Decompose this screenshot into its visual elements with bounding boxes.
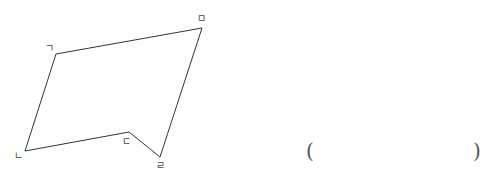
vertex-label-rieul: ㄹ (156, 161, 165, 171)
vertex-label-digeut: ㄷ (122, 137, 131, 147)
answer-open-paren: ( (306, 140, 314, 162)
pentagon-figure (0, 0, 484, 176)
answer-close-paren: ) (473, 140, 481, 162)
vertex-label-giyeok: ㄱ (45, 44, 54, 54)
vertex-label-mieum: ㅁ (197, 14, 206, 24)
vertex-label-nieun: ㄴ (14, 151, 23, 161)
